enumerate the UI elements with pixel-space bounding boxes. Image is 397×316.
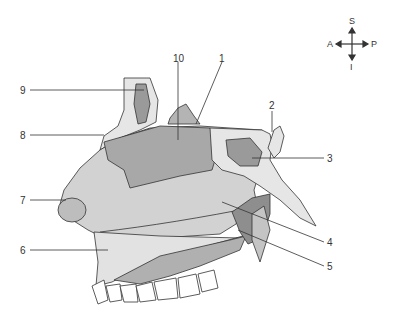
label-10: 10 — [173, 54, 184, 64]
compass-anterior: A — [327, 40, 333, 49]
label-5: 5 — [327, 262, 333, 272]
label-9: 9 — [20, 86, 26, 96]
label-4: 4 — [327, 238, 333, 248]
compass-inferior: I — [350, 63, 353, 72]
label-6: 6 — [20, 246, 26, 256]
label-3: 3 — [327, 154, 333, 164]
nasal-tip — [58, 198, 86, 222]
compass-superior: S — [349, 17, 355, 26]
crista-galli — [168, 104, 200, 124]
anatomy-illustration — [0, 0, 397, 316]
label-8: 8 — [20, 131, 26, 141]
nasal-cavity-diagram: 1 2 3 4 5 6 7 8 9 10 S I A P — [0, 0, 397, 316]
label-7: 7 — [20, 196, 26, 206]
label-1: 1 — [219, 54, 225, 64]
orientation-compass — [336, 28, 368, 60]
compass-posterior: P — [371, 40, 377, 49]
label-2: 2 — [269, 101, 275, 111]
